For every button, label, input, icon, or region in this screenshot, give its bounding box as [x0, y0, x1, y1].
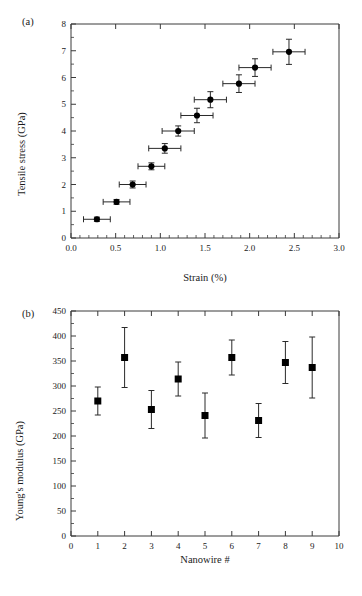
- figure-container: (a) 0.00.51.01.52.02.53.0012345678 Tensi…: [0, 0, 362, 596]
- y-tick-label: 450: [53, 306, 67, 316]
- y-tick-label: 150: [53, 456, 67, 466]
- panel-a-x-axis-title: Strain (%): [71, 272, 339, 283]
- x-tick-label: 9: [310, 541, 315, 551]
- panel-b-y-axis-title: Young's modulus (GPa): [14, 421, 25, 521]
- data-point: [138, 163, 165, 170]
- marker-square: [94, 398, 101, 405]
- panel-a-plot: 0.00.51.01.52.02.53.0012345678: [0, 0, 362, 296]
- marker-square: [228, 354, 235, 361]
- y-tick-label: 8: [62, 19, 67, 29]
- marker-square: [255, 417, 262, 424]
- panel-b-x-axis-title: Nanowire #: [71, 554, 339, 565]
- data-point: [309, 337, 316, 398]
- data-point: [194, 92, 226, 108]
- x-tick-label: 5: [203, 541, 208, 551]
- marker-circle: [148, 163, 154, 169]
- x-tick-label: 2.5: [289, 243, 301, 253]
- x-tick-label: 7: [256, 541, 261, 551]
- marker-square: [309, 364, 316, 371]
- y-tick-label: 0: [62, 233, 67, 243]
- x-tick-label: 3: [149, 541, 154, 551]
- data-point: [282, 342, 289, 384]
- y-tick-label: 4: [62, 126, 67, 136]
- x-tick-label: 0.5: [110, 243, 122, 253]
- x-tick-label: 4: [176, 541, 181, 551]
- x-tick-label: 1.5: [199, 243, 211, 253]
- marker-circle: [130, 181, 136, 187]
- data-point: [175, 362, 182, 396]
- data-point: [121, 328, 128, 388]
- marker-circle: [236, 81, 242, 87]
- marker-square: [148, 406, 155, 413]
- y-tick-label: 50: [57, 506, 67, 516]
- data-point: [149, 144, 181, 154]
- data-point: [94, 387, 101, 415]
- marker-circle: [252, 65, 258, 71]
- data-point: [84, 216, 111, 222]
- x-tick-label: 1.0: [155, 243, 167, 253]
- marker-circle: [113, 199, 119, 205]
- panel-a: (a) 0.00.51.01.52.02.53.0012345678 Tensi…: [0, 0, 362, 296]
- marker-circle: [94, 216, 100, 222]
- panel-a-y-axis-title: Tensile stress (GPa): [16, 112, 27, 196]
- data-point: [103, 199, 130, 205]
- x-tick-label: 2: [122, 541, 127, 551]
- y-tick-label: 3: [62, 153, 67, 163]
- x-tick-label: 2.0: [244, 243, 256, 253]
- y-tick-label: 350: [53, 356, 67, 366]
- y-tick-label: 300: [53, 381, 67, 391]
- marker-circle: [207, 97, 213, 103]
- panel-b-plot: 012345678910050100150200250300350400450: [0, 296, 362, 596]
- data-point: [228, 340, 235, 375]
- x-tick-label: 0: [69, 541, 74, 551]
- x-tick-label: 3.0: [333, 243, 345, 253]
- marker-square: [202, 412, 209, 419]
- marker-circle: [162, 145, 168, 151]
- y-tick-label: 5: [62, 99, 67, 109]
- axis-frame: [71, 24, 339, 238]
- data-point: [273, 39, 305, 64]
- marker-circle: [194, 112, 200, 118]
- y-tick-label: 400: [53, 331, 67, 341]
- data-point: [202, 393, 209, 438]
- x-tick-label: 6: [230, 541, 235, 551]
- y-tick-label: 7: [62, 46, 67, 56]
- marker-circle: [175, 128, 181, 134]
- data-point: [181, 108, 213, 122]
- data-point: [223, 75, 255, 93]
- marker-square: [282, 359, 289, 366]
- y-tick-label: 1: [62, 206, 67, 216]
- x-tick-label: 10: [335, 541, 345, 551]
- data-point: [255, 404, 262, 438]
- data-point: [239, 59, 271, 77]
- data-point: [119, 181, 146, 188]
- y-tick-label: 100: [53, 481, 67, 491]
- marker-square: [175, 376, 182, 383]
- data-point: [162, 126, 194, 136]
- panel-b: (b) 012345678910050100150200250300350400…: [0, 296, 362, 596]
- y-tick-label: 200: [53, 431, 67, 441]
- x-tick-label: 8: [283, 541, 288, 551]
- data-point: [148, 391, 155, 429]
- x-tick-label: 1: [96, 541, 101, 551]
- y-tick-label: 0: [62, 531, 67, 541]
- marker-square: [121, 354, 128, 361]
- y-tick-label: 2: [62, 180, 67, 190]
- x-tick-label: 0.0: [65, 243, 77, 253]
- y-tick-label: 250: [53, 406, 67, 416]
- y-tick-label: 6: [62, 73, 67, 83]
- marker-circle: [286, 49, 292, 55]
